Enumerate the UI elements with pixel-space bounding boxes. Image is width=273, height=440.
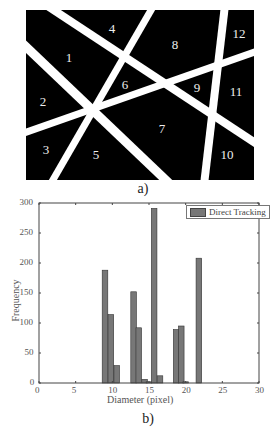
legend-label: Direct Tracking <box>209 207 266 217</box>
y-axis-title: Frequency <box>10 279 21 321</box>
y-tick-label: 0 <box>30 377 35 387</box>
region-label: 8 <box>172 37 179 53</box>
region-label: 10 <box>221 147 234 163</box>
histogram-bar <box>173 330 179 383</box>
x-tick-label: 25 <box>218 385 227 395</box>
histogram-bar <box>157 376 163 383</box>
histogram-bar <box>196 258 202 383</box>
region-label: 7 <box>159 121 166 137</box>
histogram-bar <box>178 326 184 383</box>
x-tick-label: 5 <box>72 385 77 395</box>
histogram-bar <box>151 208 157 383</box>
figure-a-image: 123456789101112 <box>26 10 254 180</box>
x-tick-label: 10 <box>108 385 117 395</box>
legend-swatch-icon <box>190 208 206 217</box>
x-tick-label: 30 <box>255 385 264 395</box>
y-tick-label: 300 <box>19 197 33 207</box>
x-axis-title: Diameter (pixel) <box>107 394 173 405</box>
chart-legend: Direct Tracking <box>186 205 270 219</box>
region-label: 3 <box>43 142 50 158</box>
y-tick-label: 150 <box>19 287 33 297</box>
figure-b-caption: b) <box>142 411 154 427</box>
histogram-bar <box>108 315 114 383</box>
region-label: 4 <box>109 21 116 37</box>
region-label: 2 <box>40 94 47 110</box>
frequency-bar-chart: Direct Tracking Diameter (pixel) Frequen… <box>0 195 273 440</box>
y-tick-label: 200 <box>19 257 33 267</box>
x-tick-label: 20 <box>182 385 191 395</box>
y-tick-label: 100 <box>19 317 33 327</box>
histogram-bar <box>114 366 120 383</box>
histogram-bar <box>131 292 137 383</box>
x-tick-label: 15 <box>145 385 154 395</box>
region-label: 1 <box>66 50 73 66</box>
region-label: 9 <box>194 80 201 96</box>
y-tick-label: 50 <box>25 347 34 357</box>
histogram-bar <box>136 328 142 383</box>
y-tick-label: 250 <box>19 227 33 237</box>
x-tick-label: 0 <box>35 385 40 395</box>
histogram-bar <box>102 270 108 383</box>
region-label: 5 <box>93 147 100 163</box>
region-label: 6 <box>122 77 129 93</box>
region-label: 12 <box>233 26 246 42</box>
region-label: 11 <box>230 84 243 100</box>
